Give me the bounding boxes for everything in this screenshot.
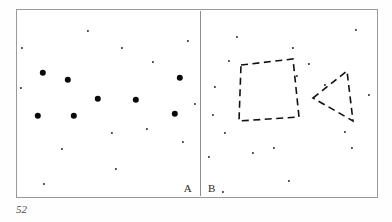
small-dot-6 — [194, 103, 196, 105]
small-dot-11 — [115, 168, 117, 170]
small-dot-2 — [21, 47, 23, 49]
small-dot-14 — [273, 147, 275, 149]
small-dot-10 — [224, 132, 226, 134]
panel-divider — [200, 11, 201, 196]
small-dot-12 — [208, 156, 210, 158]
small-dot-0 — [236, 36, 238, 38]
small-dot-5 — [20, 87, 22, 89]
large-dot-6 — [35, 113, 41, 119]
small-dot-17 — [222, 191, 224, 193]
panel-b-label: B — [208, 182, 216, 194]
large-dot-3 — [133, 97, 139, 103]
small-dot-16 — [288, 180, 290, 182]
small-dot-7 — [111, 132, 113, 134]
dashed-quadrilateral — [239, 59, 299, 121]
large-dot-0 — [40, 70, 46, 76]
small-dot-8 — [368, 94, 370, 96]
large-dot-5 — [172, 111, 178, 117]
large-dot-4 — [177, 75, 183, 81]
small-dot-0 — [87, 30, 89, 32]
small-dot-5 — [324, 84, 326, 86]
small-dot-13 — [252, 152, 254, 154]
small-dot-4 — [308, 63, 310, 65]
small-dot-9 — [212, 114, 214, 116]
small-dot-10 — [61, 148, 63, 150]
dashed-shape-layer — [201, 9, 378, 198]
page-number: 52 — [16, 203, 27, 215]
dashed-triangle — [313, 71, 353, 121]
small-dot-6 — [214, 86, 216, 88]
large-dot-1 — [65, 77, 71, 83]
small-dot-15 — [351, 147, 353, 149]
panel-b: B — [201, 9, 378, 198]
small-dot-9 — [182, 141, 184, 143]
small-dot-1 — [187, 40, 189, 42]
figure-root: A B 52 — [0, 0, 392, 222]
small-dot-8 — [146, 128, 148, 130]
small-dot-1 — [292, 47, 294, 49]
panel-a: A — [16, 9, 201, 198]
small-dot-4 — [152, 61, 154, 63]
small-dot-3 — [228, 60, 230, 62]
large-dot-7 — [71, 113, 77, 119]
small-dot-7 — [296, 75, 298, 77]
panel-a-label: A — [184, 182, 192, 194]
large-dot-2 — [95, 96, 101, 102]
small-dot-11 — [344, 131, 346, 133]
small-dot-3 — [121, 47, 123, 49]
small-dot-2 — [355, 29, 357, 31]
small-dot-12 — [43, 183, 45, 185]
